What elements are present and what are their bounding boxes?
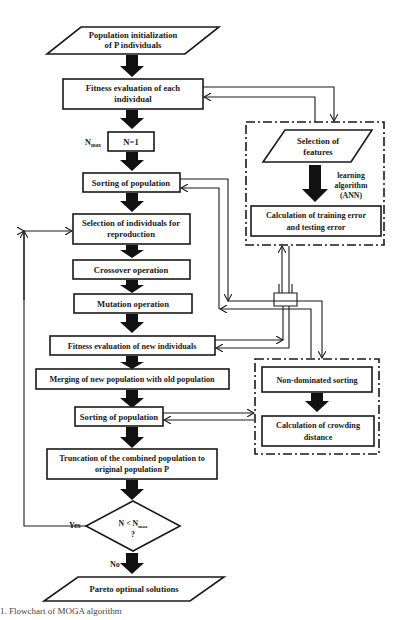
arrow-down-icon — [120, 280, 144, 293]
arrow-down-icon — [120, 427, 144, 448]
decision-diamond: N < Nmax ? — [86, 501, 180, 551]
arrow-down-icon — [120, 152, 144, 171]
ann-to-fitness-connector — [204, 97, 315, 122]
fitness-text-1: Fitness evaluation of each — [86, 83, 181, 93]
sorting-population-box-1: Sorting of population — [83, 173, 180, 192]
figure-caption: 1. Flowchart of MOGA algorithm — [0, 606, 122, 616]
crowding-text-2: distance — [304, 433, 333, 442]
nondominated-text: Non-dominated sorting — [276, 376, 358, 385]
truncation-box: Truncation of the combined population to… — [47, 449, 217, 479]
nmax-label: Nmax — [85, 138, 101, 148]
algorithm-text-2: algorithm — [335, 181, 368, 190]
fitness-new-in-connector — [216, 306, 289, 348]
mutation-box: Mutation operation — [74, 294, 192, 313]
fitness-text-2: individual — [114, 94, 152, 104]
moga-flowchart: Population initialization of P individua… — [0, 0, 402, 620]
crowding-text-1: Calculation of crowding — [276, 421, 361, 430]
sorting2-text: Sorting of population — [80, 412, 159, 422]
algorithm-text-3: (ANN) — [340, 191, 362, 200]
arrow-down-icon — [120, 245, 144, 258]
fitness-new-box: Fitness evaluation of new individuals — [50, 336, 215, 355]
arrow-down-icon — [120, 480, 144, 500]
truncation-text-2: original population P — [95, 465, 169, 474]
arrow-down-icon — [120, 553, 144, 574]
crossover-text: Crossover operation — [94, 265, 169, 275]
algorithm-text-1: learning — [337, 171, 365, 180]
decision-text-2: ? — [131, 530, 135, 539]
n-init-box: N=1 — [108, 132, 154, 151]
training-error-box: Calculation of training error and testin… — [251, 206, 381, 236]
selection-text-1: Selection of individuals for — [82, 218, 180, 228]
pareto-text: Pareto optimal solutions — [89, 584, 179, 594]
arrow-down-icon — [120, 55, 144, 77]
sorting1-in-connector — [181, 188, 219, 309]
crowding-distance-box: Calculation of crowding distance — [262, 416, 374, 446]
arrow-down-icon — [120, 314, 144, 333]
start-text-2: of P individuals — [105, 40, 162, 50]
merging-box: Merging of new population with old popul… — [36, 369, 229, 389]
pareto-parallelogram: Pareto optimal solutions — [44, 577, 224, 601]
merging-text: Merging of new population with old popul… — [49, 375, 215, 384]
features-text-2: features — [303, 147, 333, 157]
arrow-down-icon — [120, 110, 144, 129]
features-text-1: Selection of — [297, 136, 339, 146]
junction-cross — [274, 293, 297, 306]
fitness-evaluation-box: Fitness evaluation of each individual — [63, 79, 203, 109]
crossover-box: Crossover operation — [73, 260, 190, 279]
from-nsga-connector — [220, 309, 311, 358]
features-parallelogram: Selection of features — [263, 130, 372, 162]
sorting-population-box-2: Sorting of population — [75, 407, 163, 426]
arrow-down-icon — [120, 390, 144, 408]
arrow-down-icon — [120, 356, 144, 369]
truncation-text-1: Truncation of the combined population to — [59, 454, 205, 463]
fitness-to-ann-connector — [203, 87, 334, 121]
junction-upper — [279, 284, 292, 293]
fitness-new-text: Fitness evaluation of new individuals — [68, 342, 197, 351]
selection-text-2: reproduction — [107, 229, 155, 239]
arrow-down-icon — [120, 193, 144, 212]
mutation-text: Mutation operation — [97, 299, 169, 309]
selection-box: Selection of individuals for reproductio… — [73, 214, 190, 244]
start-parallelogram: Population initialization of P individua… — [47, 27, 219, 54]
error-text-2: and testing error — [287, 223, 346, 232]
start-text-1: Population initialization — [89, 30, 178, 40]
no-label: No — [110, 560, 120, 569]
non-dominated-sorting-box: Non-dominated sorting — [262, 367, 372, 392]
n-init-text: N=1 — [123, 137, 138, 147]
arrow-down-icon — [305, 393, 329, 412]
arrow-down-icon — [302, 165, 328, 202]
sorting1-text: Sorting of population — [92, 178, 171, 188]
error-text-1: Calculation of training error — [266, 211, 366, 220]
